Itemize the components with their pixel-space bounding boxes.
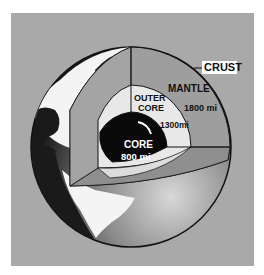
outer-core-label-line2: CORE [138,104,164,113]
core-thickness-label: 800 mi [121,152,151,162]
outer-core-label-line1: OUTER [134,94,166,103]
crust-label: CRUST [204,62,242,73]
outer-core-thickness-label: 1300mi [160,121,189,130]
mantle-thickness-label: 1800 mi [184,104,217,113]
mantle-label: MANTLE [168,84,210,94]
earth-cutaway-diagram [0,0,264,275]
core-label: CORE [124,140,153,150]
